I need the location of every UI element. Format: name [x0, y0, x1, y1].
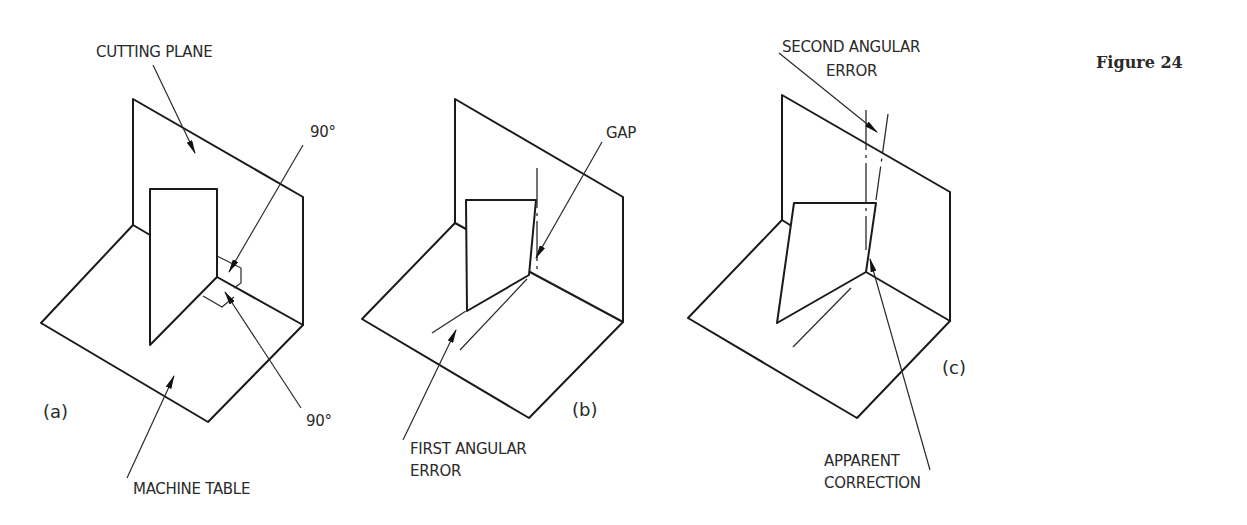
panel-c-label: (c) [942, 357, 966, 378]
figure-title: Figure 24 [1096, 53, 1183, 72]
angle-lower-label: 90° [306, 412, 332, 430]
cutting-plane-leader [153, 65, 195, 153]
machine-table-outline [362, 223, 623, 418]
panel-a-label: (a) [43, 401, 68, 422]
cutting-plane-label: CUTTING PLANE [96, 43, 212, 61]
machine-table-outline [688, 220, 950, 418]
correction-label-line2: CORRECTION [824, 474, 921, 492]
first-error-label-line2: ERROR [410, 462, 461, 480]
second-error-label-line1: SECOND ANGULAR [782, 38, 920, 56]
angle-upper-label: 90° [310, 123, 336, 141]
cutting-plane-outline [455, 99, 623, 322]
panel-b-label: (b) [572, 399, 597, 420]
gap-leader [536, 142, 602, 258]
second-error-label-line2: ERROR [826, 62, 877, 80]
workpiece-block [150, 189, 217, 345]
figure-canvas: CUTTING PLANE 90° 90° MACHINE TABLE (a) … [0, 0, 1247, 525]
workpiece-block [466, 200, 536, 311]
table-back-edge [455, 223, 466, 229]
correction-leader [870, 259, 930, 470]
error-extension-line [432, 311, 466, 333]
first-error-label-line1: FIRST ANGULAR [410, 440, 527, 458]
panel-a: CUTTING PLANE 90° 90° MACHINE TABLE (a) [41, 43, 336, 498]
error-parallel-line [460, 279, 527, 350]
first-error-leader [403, 330, 456, 440]
machine-table-leader [127, 376, 174, 478]
table-back-edge [133, 225, 150, 235]
machine-table-label: MACHINE TABLE [133, 480, 250, 498]
panel-b: GAP FIRST ANGULAR ERROR (b) [362, 99, 636, 480]
workpiece-block [777, 203, 876, 323]
table-back-edge [782, 220, 790, 225]
panel-c: SECOND ANGULAR ERROR APPARENT CORRECTION… [688, 38, 966, 492]
angle-upper-leader [229, 145, 303, 272]
correction-label-line1: APPARENT [824, 452, 901, 470]
second-error-line [876, 114, 888, 200]
angle-lower-leader [225, 292, 301, 408]
gap-label: GAP [606, 124, 636, 142]
